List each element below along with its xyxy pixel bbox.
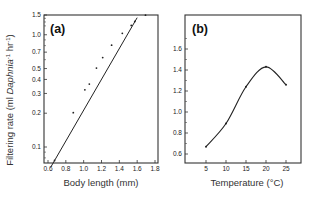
y-tick-label: 0.4: [32, 76, 41, 83]
data-point: [205, 146, 207, 148]
data-point: [225, 123, 227, 125]
data-point: [121, 32, 123, 34]
panel-b-y-ticks: 0.60.81.01.21.41.6: [173, 39, 188, 158]
data-point: [134, 21, 136, 23]
data-point: [245, 86, 247, 88]
x-tick-label: 1.0: [79, 165, 88, 172]
panel-a-regression-line: [51, 18, 137, 168]
panel-a-data-points: [54, 14, 147, 161]
panel-a-y-ticks: 0.10.20.30.40.50.71.01.5: [32, 11, 47, 150]
data-point: [130, 24, 132, 26]
panel-a-y-axis-label: Filtering rate (ml Daphnia-1 hr-1): [4, 34, 15, 166]
panel-a-frame: [44, 15, 158, 163]
x-tick-label: 20: [262, 165, 270, 172]
x-tick-label: 1.6: [133, 165, 142, 172]
y-tick-label: 0.6: [173, 150, 182, 157]
y-tick-label: 1.5: [32, 11, 41, 18]
y-tick-label: 0.5: [32, 65, 41, 72]
x-tick-label: 5: [204, 165, 208, 172]
panel-b-x-axis-label: Temperature (°C): [211, 177, 284, 188]
panel-a-x-axis-label: Body length (mm): [64, 177, 139, 188]
y-tick-label: 0.2: [32, 109, 41, 116]
data-point: [84, 89, 86, 91]
panel-b-curve: [206, 67, 286, 147]
data-point: [54, 160, 56, 162]
y-tick-label: 0.3: [32, 90, 41, 97]
y-tick-label: 1.4: [173, 66, 182, 73]
figure: 0.10.20.30.40.50.71.01.5 0.60.81.01.21.4…: [0, 0, 309, 204]
x-tick-label: 15: [242, 165, 250, 172]
data-point: [96, 67, 98, 69]
data-point: [265, 66, 267, 68]
y-tick-label: 1.2: [173, 87, 182, 94]
y-tick-label: 0.1: [32, 143, 41, 150]
panel-b-x-ticks: 510152025: [204, 160, 290, 172]
data-point: [102, 57, 104, 59]
panel-b-data-points: [205, 66, 287, 148]
panel-b-frame: [185, 15, 301, 163]
y-tick-label: 0.8: [173, 129, 182, 136]
x-tick-label: 1.4: [115, 165, 124, 172]
y-tick-label: 1.6: [173, 45, 182, 52]
y-tick-label: 1.0: [173, 108, 182, 115]
x-tick-label: 1.8: [150, 165, 159, 172]
data-point: [88, 83, 90, 85]
x-tick-label: 10: [222, 165, 230, 172]
x-tick-label: 0.8: [61, 165, 70, 172]
data-point: [72, 112, 74, 114]
data-point: [145, 14, 147, 16]
panel-b: 0.60.81.01.21.41.6 510152025 (b) Tempera…: [173, 15, 301, 188]
data-point: [285, 84, 287, 86]
panel-b-label: (b): [192, 22, 208, 36]
y-tick-label: 0.7: [32, 48, 41, 55]
panel-a: 0.10.20.30.40.50.71.01.5 0.60.81.01.21.4…: [4, 11, 160, 188]
panel-a-x-ticks: 0.60.81.01.21.41.61.8: [43, 160, 159, 172]
x-tick-label: 1.2: [97, 165, 106, 172]
data-point: [111, 44, 113, 46]
panel-a-label: (a): [50, 22, 65, 36]
x-tick-label: 25: [282, 165, 290, 172]
y-tick-label: 1.0: [32, 31, 41, 38]
